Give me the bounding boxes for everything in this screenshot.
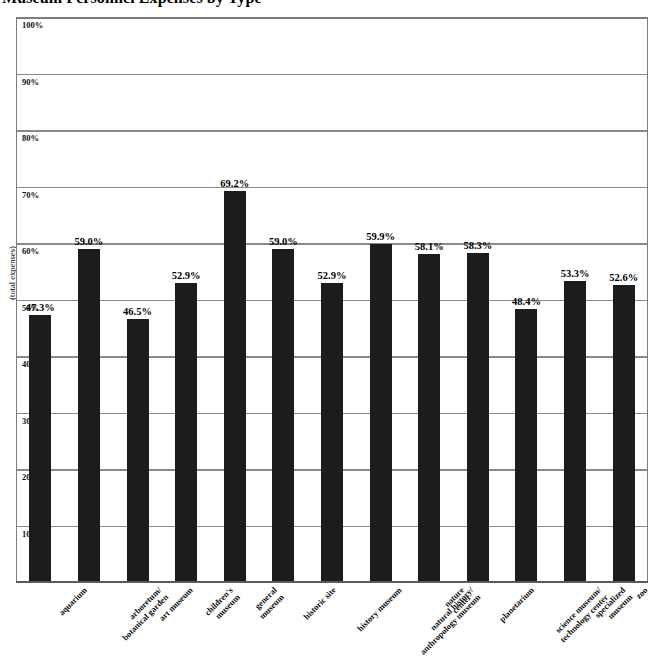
y-tick-label: 90% — [22, 77, 39, 87]
gridlines: 10%20%30%40%50%60%70%80%90%100% — [17, 18, 647, 581]
y-tick-label: 60% — [22, 246, 39, 256]
gridline-60 — [17, 243, 647, 245]
gridline-100 — [17, 17, 647, 19]
x-tick-label: planetarium — [497, 585, 536, 624]
gridline-10 — [17, 526, 647, 528]
x-tick-label: children's museum — [203, 585, 243, 625]
y-tick-label: 20% — [22, 472, 39, 482]
y-tick-label: 10% — [22, 529, 39, 539]
gridline-50 — [17, 300, 647, 302]
x-axis-tick-labels: aquariumarboretum/ botanical gardenart m… — [16, 585, 648, 658]
gridline-30 — [17, 413, 647, 415]
y-tick-label: 80% — [22, 133, 39, 143]
y-tick-label: 100% — [22, 20, 43, 30]
gridline-90 — [17, 74, 647, 76]
gridline-70 — [17, 187, 647, 189]
x-tick-label: historic site — [302, 585, 339, 622]
gridline-20 — [17, 469, 647, 471]
category-axis-line — [16, 581, 648, 583]
y-tick-label: 40% — [22, 359, 39, 369]
x-tick-label: zoo — [633, 585, 649, 601]
chart-title: Museum Personnel Expenses by Type — [2, 0, 262, 7]
plot-area: 10%20%30%40%50%60%70%80%90%100% — [16, 17, 648, 582]
x-tick-label: general museum — [250, 585, 286, 621]
y-tick-label: 30% — [22, 416, 39, 426]
gridline-80 — [17, 130, 647, 132]
y-tick-label: 70% — [22, 190, 39, 200]
gridline-40 — [17, 356, 647, 358]
x-tick-label: aquarium — [57, 585, 90, 618]
y-tick-label: 50% — [22, 303, 39, 313]
x-tick-label: history museum — [355, 585, 404, 634]
